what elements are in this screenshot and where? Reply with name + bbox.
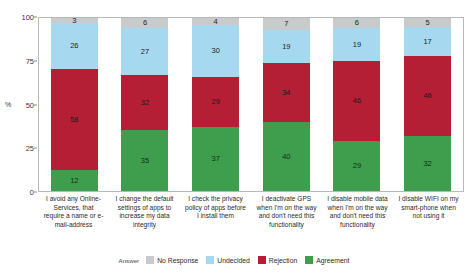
bar-segment-value: 19 <box>282 43 290 51</box>
y-axis-title: % <box>2 101 14 108</box>
bar-segment[interactable]: 46 <box>333 61 380 141</box>
y-axis-tick-mark <box>34 148 37 149</box>
legend-item-label: Agreement <box>316 257 349 264</box>
bar-segment-value: 29 <box>211 98 219 106</box>
legend-swatch-icon <box>258 256 266 264</box>
bars-layer: 3265812627323543029377193440619462951746… <box>39 18 463 191</box>
bar-segment[interactable]: 30 <box>192 25 239 77</box>
bar-segment[interactable]: 29 <box>192 77 239 127</box>
bar-stack[interactable]: 5174632 <box>404 18 451 191</box>
x-axis-labels: I avoid any Online-Services, that requir… <box>38 195 464 230</box>
bar-stack[interactable]: 6273235 <box>121 18 168 191</box>
legend-item-label: Undecided <box>217 257 250 264</box>
bar-column: 3265812 <box>51 18 98 191</box>
bar-column: 6273235 <box>121 18 168 191</box>
bar-segment[interactable]: 29 <box>333 141 380 191</box>
bar-segment-value: 6 <box>355 19 359 27</box>
x-axis-tick-label: I disable mobile data when I'm on the wa… <box>327 195 389 230</box>
bar-segment-value: 37 <box>211 155 219 163</box>
bar-segment[interactable]: 5 <box>404 18 451 27</box>
y-axis-tick-label: 75 <box>4 56 34 65</box>
bar-segment[interactable]: 19 <box>263 30 310 63</box>
legend-swatch-icon <box>206 256 214 264</box>
x-axis-tick-label: I check the privacy policy of apps befor… <box>185 195 247 230</box>
bar-column: 5174632 <box>404 18 451 191</box>
y-axis-tick-mark <box>34 17 37 18</box>
bar-segment-value: 27 <box>141 48 149 56</box>
bar-segment-value: 12 <box>70 177 78 185</box>
bar-segment[interactable]: 12 <box>51 170 98 191</box>
legend-item-label: No Response <box>157 257 198 264</box>
y-axis-tick-mark <box>34 60 37 61</box>
bar-segment-value: 32 <box>423 160 431 168</box>
legend-item[interactable]: Agreement <box>305 256 349 264</box>
bar-segment[interactable]: 7 <box>263 18 310 30</box>
legend-item[interactable]: No Response <box>146 256 198 264</box>
bar-segment-value: 6 <box>143 19 147 27</box>
bar-segment[interactable]: 34 <box>263 63 310 122</box>
bar-segment[interactable]: 4 <box>192 18 239 25</box>
y-axis-tick-label: 100 <box>4 13 34 22</box>
bar-column: 4302937 <box>192 18 239 191</box>
bar-segment[interactable]: 26 <box>51 23 98 68</box>
bar-segment-value: 46 <box>423 92 431 100</box>
bar-segment-value: 4 <box>214 18 218 25</box>
bar-segment[interactable]: 32 <box>404 136 451 191</box>
bar-segment-value: 58 <box>70 116 78 124</box>
legend-title: Answer <box>119 257 140 264</box>
chart-legend: Answer No ResponseUndecidedRejectionAgre… <box>0 256 471 264</box>
y-axis-tick-mark <box>34 104 37 105</box>
legend-swatch-icon <box>305 256 313 264</box>
bar-segment[interactable]: 19 <box>333 28 380 61</box>
bar-segment-value: 32 <box>141 99 149 107</box>
bar-column: 6194629 <box>333 18 380 191</box>
bar-segment-value: 19 <box>353 41 361 49</box>
bar-stack[interactable]: 7193440 <box>263 18 310 191</box>
bar-segment[interactable]: 27 <box>121 28 168 75</box>
bar-stack[interactable]: 6194629 <box>333 18 380 191</box>
bar-segment[interactable]: 17 <box>404 27 451 56</box>
legend-item[interactable]: Rejection <box>258 256 297 264</box>
bar-segment[interactable]: 6 <box>121 18 168 28</box>
y-axis-tick-label: 25 <box>4 144 34 153</box>
y-axis: 0255075100 <box>0 0 34 279</box>
bar-segment-value: 35 <box>141 157 149 165</box>
bar-segment-value: 40 <box>282 153 290 161</box>
bar-segment[interactable]: 37 <box>192 127 239 191</box>
bar-segment-value: 34 <box>282 89 290 97</box>
bar-segment[interactable]: 6 <box>333 18 380 28</box>
y-axis-tick-label: 0 <box>4 188 34 197</box>
bar-segment[interactable]: 46 <box>404 56 451 136</box>
bar-column: 7193440 <box>263 18 310 191</box>
bar-segment[interactable]: 40 <box>263 122 310 191</box>
bar-segment-value: 46 <box>353 97 361 105</box>
x-axis-tick-label: I change the default settings of apps to… <box>114 195 176 230</box>
bar-stack[interactable]: 4302937 <box>192 18 239 191</box>
legend-swatch-icon <box>146 256 154 264</box>
bar-segment-value: 17 <box>423 38 431 46</box>
bar-segment-value: 7 <box>284 20 288 28</box>
x-axis-tick-label: I avoid any Online-Services, that requir… <box>43 195 105 230</box>
bar-segment-value: 5 <box>426 19 430 27</box>
bar-segment[interactable]: 58 <box>51 69 98 170</box>
bar-segment[interactable]: 32 <box>121 75 168 130</box>
bar-stack[interactable]: 3265812 <box>51 18 98 191</box>
stacked-bar-chart: 0255075100 % 326581262732354302937719344… <box>0 0 471 279</box>
bar-segment[interactable]: 35 <box>121 130 168 191</box>
legend-item[interactable]: Undecided <box>206 256 250 264</box>
y-axis-tick-mark <box>34 192 37 193</box>
bar-segment-value: 26 <box>70 42 78 50</box>
plot-area: 3265812627323543029377193440619462951746… <box>38 17 464 192</box>
x-axis-tick-label: I disable WIFI on my smart-phone when no… <box>398 195 460 230</box>
bar-segment-value: 30 <box>211 47 219 55</box>
bar-segment-value: 29 <box>353 162 361 170</box>
legend-item-label: Rejection <box>269 257 297 264</box>
x-axis-tick-label: I deactivate GPS when I'm on the way and… <box>256 195 318 230</box>
